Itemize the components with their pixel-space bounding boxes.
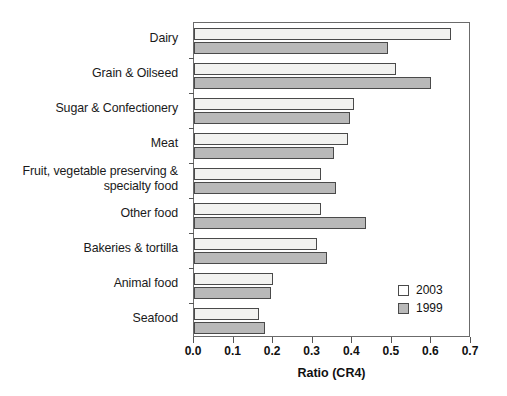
bar-1999-7: [194, 252, 327, 264]
chart-legend: 2003 1999: [398, 281, 464, 317]
x-tick-label-6: 0.6: [422, 344, 439, 358]
category-label-9: Seafood: [133, 311, 178, 326]
category-label-1: Dairy: [150, 31, 178, 46]
bar-2003-6: [194, 203, 321, 215]
bar-chart-figure: DairyGrain & OilseedSugar & Confectioner…: [0, 0, 507, 396]
category-tick-8: [189, 268, 194, 269]
bar-1999-8: [194, 287, 271, 299]
x-tick-2: [272, 337, 273, 343]
x-tick-7: [470, 337, 471, 343]
bar-2003-5: [194, 168, 321, 180]
x-tick-0: [193, 337, 194, 343]
bar-2003-2: [194, 63, 396, 75]
bar-2003-4: [194, 133, 348, 145]
category-label-7: Bakeries & tortilla: [83, 241, 178, 256]
legend-label-2003: 2003: [416, 283, 443, 297]
category-label-6: Other food: [120, 206, 178, 221]
x-tick-3: [312, 337, 313, 343]
x-axis-title: Ratio (CR4): [193, 366, 470, 380]
bar-1999-4: [194, 147, 334, 159]
category-label-2: Grain & Oilseed: [92, 66, 178, 81]
category-tick-4: [189, 128, 194, 129]
bar-2003-7: [194, 238, 317, 250]
x-tick-label-5: 0.5: [383, 344, 400, 358]
bar-2003-3: [194, 98, 354, 110]
legend-swatch-1999-icon: [398, 303, 409, 314]
x-tick-label-1: 0.1: [224, 344, 241, 358]
category-tick-9: [189, 303, 194, 304]
legend-entry-2003: 2003: [398, 281, 464, 299]
legend-swatch-2003-icon: [398, 285, 409, 296]
category-tick-3: [189, 93, 194, 94]
legend-entry-1999: 1999: [398, 299, 464, 317]
x-tick-label-2: 0.2: [264, 344, 281, 358]
category-label-3: Sugar & Confectionery: [55, 101, 178, 116]
x-tick-6: [430, 337, 431, 343]
x-tick-label-3: 0.3: [303, 344, 320, 358]
x-tick-5: [391, 337, 392, 343]
bar-2003-8: [194, 273, 273, 285]
x-tick-label-4: 0.4: [343, 344, 360, 358]
legend-label-1999: 1999: [416, 301, 443, 315]
category-tick-7: [189, 233, 194, 234]
category-label-4: Meat: [151, 136, 178, 151]
x-tick-label-7: 0.7: [462, 344, 479, 358]
bar-2003-1: [194, 28, 451, 40]
bar-1999-2: [194, 77, 431, 89]
category-axis: DairyGrain & OilseedSugar & Confectioner…: [0, 22, 186, 337]
bar-1999-1: [194, 42, 388, 54]
bar-1999-5: [194, 182, 336, 194]
bar-1999-6: [194, 217, 366, 229]
bar-2003-9: [194, 308, 259, 320]
category-label-5: Fruit, vegetable preserving & specialty …: [22, 164, 178, 194]
category-tick-5: [189, 163, 194, 164]
category-label-8: Animal food: [114, 276, 178, 291]
x-tick-label-0: 0.0: [185, 344, 202, 358]
x-tick-4: [351, 337, 352, 343]
x-tick-1: [233, 337, 234, 343]
bar-1999-3: [194, 112, 350, 124]
category-tick-2: [189, 58, 194, 59]
category-tick-6: [189, 198, 194, 199]
bar-1999-9: [194, 322, 265, 334]
